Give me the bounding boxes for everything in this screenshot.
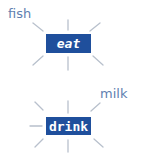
associated-word-milk: milk [100, 87, 127, 100]
verb-label-drink: drink [49, 119, 88, 134]
verb-label-eat: eat [57, 36, 80, 51]
verb-box-drink: drink [46, 117, 91, 135]
verb-box-eat: eat [46, 34, 91, 53]
associated-word-fish: fish [8, 7, 31, 20]
